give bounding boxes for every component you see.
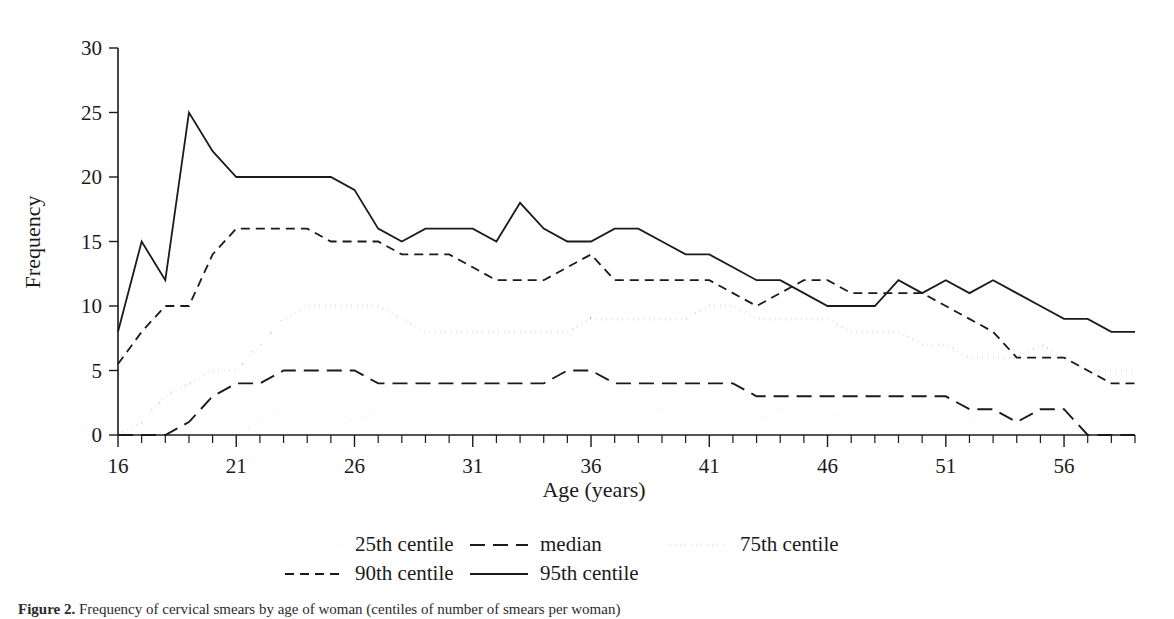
x-tick-label: 36 bbox=[581, 454, 602, 478]
centile-line-chart: 051015202530 162126313641465156 Frequenc… bbox=[0, 0, 1174, 592]
series-line-25th-centile bbox=[118, 409, 1135, 435]
x-tick-label: 56 bbox=[1054, 454, 1075, 478]
x-tick-label: 46 bbox=[817, 454, 838, 478]
y-tick-label: 5 bbox=[92, 359, 103, 383]
series-line-90th-centile bbox=[118, 229, 1135, 384]
x-tick-label: 51 bbox=[935, 454, 956, 478]
legend-item-95th-centile: 95th centile bbox=[470, 561, 639, 585]
figure-caption-text: Frequency of cervical smears by age of w… bbox=[79, 601, 620, 617]
x-tick-label: 21 bbox=[226, 454, 247, 478]
y-tick-label: 30 bbox=[81, 36, 102, 60]
x-tick-label: 31 bbox=[462, 454, 483, 478]
y-tick-label: 20 bbox=[81, 165, 102, 189]
figure-caption-label: Figure 2. bbox=[18, 601, 75, 617]
y-tick-label: 15 bbox=[81, 230, 102, 254]
legend-label: 25th centile bbox=[355, 532, 454, 556]
x-axis-label: Age (years) bbox=[542, 477, 645, 502]
figure-caption: Figure 2. Frequency of cervical smears b… bbox=[18, 600, 1158, 619]
series-line-95th-centile bbox=[118, 113, 1135, 332]
y-tick-label: 0 bbox=[92, 423, 103, 447]
x-tick-label: 41 bbox=[699, 454, 720, 478]
legend-label: 95th centile bbox=[540, 561, 639, 585]
series-line-median bbox=[118, 371, 1135, 436]
chart-legend: 25th centilemedian75th centile90th centi… bbox=[285, 532, 839, 585]
legend-item-median: median bbox=[470, 532, 602, 556]
y-tick-label: 25 bbox=[81, 101, 102, 125]
legend-item-90th-centile: 90th centile bbox=[285, 561, 454, 585]
y-tick-label: 10 bbox=[81, 294, 102, 318]
legend-label: median bbox=[540, 532, 602, 556]
legend-item-25th-centile: 25th centile bbox=[285, 532, 454, 556]
x-axis: 162126313641465156 bbox=[108, 435, 1136, 478]
x-tick-label: 16 bbox=[108, 454, 129, 478]
legend-label: 90th centile bbox=[355, 561, 454, 585]
series-group bbox=[118, 113, 1135, 436]
legend-item-75th-centile: 75th centile bbox=[670, 532, 839, 556]
y-axis: 051015202530 bbox=[81, 36, 118, 447]
y-axis-label: Frequency bbox=[20, 196, 45, 289]
legend-label: 75th centile bbox=[740, 532, 839, 556]
x-tick-label: 26 bbox=[344, 454, 365, 478]
